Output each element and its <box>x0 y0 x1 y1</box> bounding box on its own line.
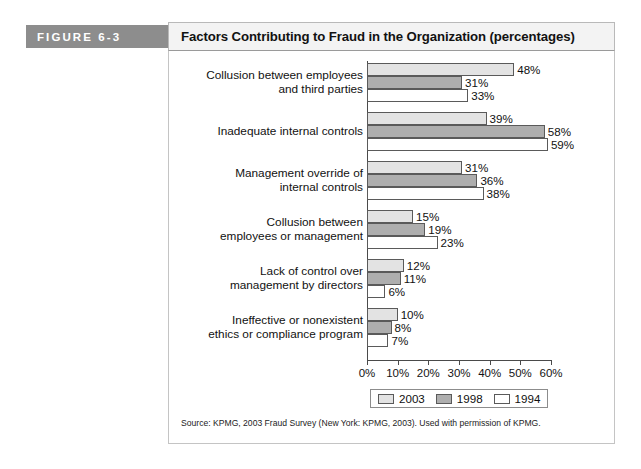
bar-2003 <box>367 259 404 272</box>
legend-swatch-2003 <box>378 394 394 404</box>
figure-source-note: Source: KPMG, 2003 Fraud Survey (New Yor… <box>181 418 541 428</box>
bar-value-label: 8% <box>395 321 412 334</box>
bar-chart-plot: 0%10%20%30%40%50%60%Collusion between em… <box>169 51 616 371</box>
bar-value-label: 31% <box>465 161 488 174</box>
bar-2003 <box>367 63 514 76</box>
bar-value-label: 39% <box>490 112 513 125</box>
bar-group: Ineffective or nonexistent ethics or com… <box>169 308 616 347</box>
bar-value-label: 10% <box>401 308 424 321</box>
bar-1998 <box>367 76 462 89</box>
bar-value-label: 48% <box>517 63 540 76</box>
x-axis-tick-label: 30% <box>447 367 470 379</box>
bar-value-label: 11% <box>404 272 426 285</box>
x-axis-tick-label: 0% <box>359 367 376 379</box>
figure-number-badge: FIGURE 6-3 <box>26 25 168 48</box>
bar-1994 <box>367 89 468 102</box>
x-axis-tick-label: 40% <box>478 367 501 379</box>
bar-value-label: 12% <box>407 259 430 272</box>
bar-2003 <box>367 210 413 223</box>
bar-1998 <box>367 174 477 187</box>
bar-value-label: 38% <box>487 187 510 200</box>
legend-item: 1994 <box>494 392 541 405</box>
category-label: Collusion between employees or managemen… <box>173 216 363 243</box>
category-label: Lack of control over management by direc… <box>173 265 363 292</box>
chart-legend: 200319981994 <box>370 389 548 408</box>
figure-title: Factors Contributing to Fraud in the Org… <box>169 29 575 44</box>
legend-label: 2003 <box>399 392 425 405</box>
bar-1994 <box>367 236 438 249</box>
x-axis-tick <box>459 360 460 365</box>
bar-value-label: 59% <box>551 138 574 151</box>
bar-1998 <box>367 272 401 285</box>
figure-number-text: FIGURE 6-3 <box>37 31 121 43</box>
chart-panel: 0%10%20%30%40%50%60%Collusion between em… <box>168 51 615 444</box>
bar-2003 <box>367 161 462 174</box>
x-axis-tick <box>520 360 521 365</box>
bar-1998 <box>367 321 392 334</box>
bar-group: Management override of internal controls… <box>169 161 616 200</box>
bar-value-label: 19% <box>428 223 451 236</box>
x-axis-tick <box>398 360 399 365</box>
bar-value-label: 31% <box>465 76 488 89</box>
x-axis-tick-label: 60% <box>539 367 562 379</box>
category-label: Inadequate internal controls <box>173 125 363 138</box>
x-axis-tick <box>551 360 552 365</box>
x-axis-tick <box>428 360 429 365</box>
bar-group: Collusion between employees or managemen… <box>169 210 616 249</box>
bar-value-label: 15% <box>416 210 439 223</box>
x-axis-tick <box>367 360 368 365</box>
bar-value-label: 7% <box>391 334 408 347</box>
legend-swatch-1998 <box>436 394 452 404</box>
legend-item: 2003 <box>378 392 425 405</box>
bar-2003 <box>367 112 487 125</box>
legend-item: 1998 <box>436 392 483 405</box>
legend-label: 1994 <box>515 392 541 405</box>
bar-value-label: 58% <box>548 125 571 138</box>
bar-1994 <box>367 138 548 151</box>
category-label: Ineffective or nonexistent ethics or com… <box>173 314 363 341</box>
bar-value-label: 33% <box>471 89 494 102</box>
x-axis-tick <box>490 360 491 365</box>
bar-group: Inadequate internal controls39%58%59% <box>169 112 616 151</box>
figure-title-bar: Factors Contributing to Fraud in the Org… <box>168 22 615 51</box>
category-label: Collusion between employees and third pa… <box>173 69 363 96</box>
bar-group: Lack of control over management by direc… <box>169 259 616 298</box>
legend-label: 1998 <box>457 392 483 405</box>
bar-1994 <box>367 187 484 200</box>
bar-1998 <box>367 223 425 236</box>
bar-1998 <box>367 125 545 138</box>
bar-2003 <box>367 308 398 321</box>
x-axis-tick-label: 50% <box>509 367 532 379</box>
bar-1994 <box>367 285 385 298</box>
bar-group: Collusion between employees and third pa… <box>169 63 616 102</box>
category-label: Management override of internal controls <box>173 167 363 194</box>
bar-value-label: 6% <box>388 285 405 298</box>
x-axis-tick-label: 20% <box>417 367 440 379</box>
bar-value-label: 36% <box>480 174 503 187</box>
figure-container: FIGURE 6-3 Factors Contributing to Fraud… <box>0 0 641 469</box>
x-axis-tick-label: 10% <box>386 367 409 379</box>
bar-value-label: 23% <box>441 236 464 249</box>
bar-1994 <box>367 334 388 347</box>
legend-swatch-1994 <box>494 394 510 404</box>
